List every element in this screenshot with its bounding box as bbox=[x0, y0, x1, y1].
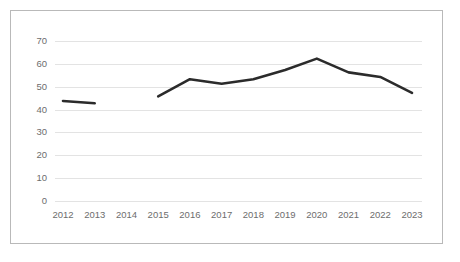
y-axis-tick-label: 60 bbox=[36, 58, 47, 69]
y-axis-tick-labels: 010203040506070 bbox=[36, 35, 47, 206]
gridlines bbox=[55, 42, 422, 202]
y-axis-tick-label: 10 bbox=[36, 172, 47, 183]
y-axis-tick-label: 30 bbox=[36, 126, 47, 137]
x-axis-tick-label: 2019 bbox=[275, 209, 296, 220]
x-axis-tick-label: 2013 bbox=[84, 209, 105, 220]
x-axis-tick-label: 2021 bbox=[338, 209, 359, 220]
x-axis-tick-label: 2017 bbox=[211, 209, 232, 220]
x-axis-tick-label: 2015 bbox=[148, 209, 169, 220]
x-axis-tick-label: 2012 bbox=[52, 209, 73, 220]
line-chart: 010203040506070 201220132014201520162017… bbox=[0, 0, 460, 262]
y-axis-tick-label: 0 bbox=[42, 195, 47, 206]
y-axis-tick-label: 50 bbox=[36, 81, 47, 92]
x-axis-tick-label: 2014 bbox=[116, 209, 137, 220]
x-axis-tick-label: 2016 bbox=[179, 209, 200, 220]
y-axis-tick-label: 20 bbox=[36, 149, 47, 160]
data-series-group bbox=[63, 59, 412, 104]
x-axis-tick-label: 2018 bbox=[243, 209, 264, 220]
x-axis-tick-labels: 2012201320142015201620172018201920202021… bbox=[52, 209, 422, 220]
x-axis-tick-label: 2020 bbox=[306, 209, 327, 220]
x-axis-tick-label: 2023 bbox=[401, 209, 422, 220]
y-axis-tick-label: 70 bbox=[36, 35, 47, 46]
data-line bbox=[63, 101, 95, 103]
x-axis-tick-label: 2022 bbox=[370, 209, 391, 220]
y-axis-tick-label: 40 bbox=[36, 104, 47, 115]
